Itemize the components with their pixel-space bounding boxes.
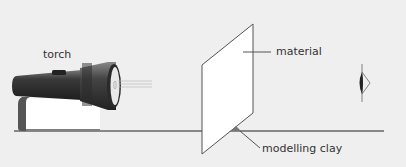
torch-label: torch <box>43 48 71 61</box>
modelling-clay-label: modelling clay <box>262 142 342 155</box>
clay-leader <box>240 131 260 148</box>
light-rays <box>118 81 152 87</box>
material-sheet <box>202 24 253 154</box>
eye-icon <box>360 64 371 102</box>
material-label: material <box>276 45 322 58</box>
diagram-canvas <box>0 0 406 167</box>
